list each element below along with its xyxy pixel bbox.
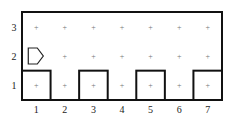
corner-marker: + <box>120 52 125 61</box>
column-label: 7 <box>205 104 210 115</box>
corner-markers: ++++++++++++++++++++ <box>34 23 210 91</box>
corner-marker: + <box>63 81 68 90</box>
column-labels: 1234567 <box>34 104 210 115</box>
row-labels: 321 <box>12 22 17 92</box>
corner-marker: + <box>63 23 68 32</box>
column-label: 1 <box>34 104 39 115</box>
corner-marker: + <box>34 23 39 32</box>
corner-marker: + <box>63 52 68 61</box>
row-label: 2 <box>12 51 17 62</box>
corner-marker: + <box>91 23 96 32</box>
column-label: 3 <box>91 104 96 115</box>
row-label: 3 <box>12 22 17 33</box>
column-label: 6 <box>177 104 182 115</box>
robot-body <box>28 48 43 64</box>
corner-marker: + <box>91 81 96 90</box>
column-label: 5 <box>148 104 153 115</box>
corner-marker: + <box>205 23 210 32</box>
corner-marker: + <box>205 52 210 61</box>
corner-marker: + <box>148 52 153 61</box>
corner-marker: + <box>205 81 210 90</box>
corner-marker: + <box>120 23 125 32</box>
corner-marker: + <box>120 81 125 90</box>
corner-marker: + <box>148 23 153 32</box>
corner-marker: + <box>91 52 96 61</box>
corner-marker: + <box>177 52 182 61</box>
row-label: 1 <box>12 80 17 91</box>
column-label: 4 <box>120 104 125 115</box>
karel-world: ++++++++++++++++++++ 321 1234567 <box>0 0 235 121</box>
corner-marker: + <box>34 81 39 90</box>
corner-marker: + <box>177 23 182 32</box>
corner-marker: + <box>177 81 182 90</box>
column-label: 2 <box>62 104 67 115</box>
corner-marker: + <box>148 81 153 90</box>
robot-icon <box>28 48 43 64</box>
